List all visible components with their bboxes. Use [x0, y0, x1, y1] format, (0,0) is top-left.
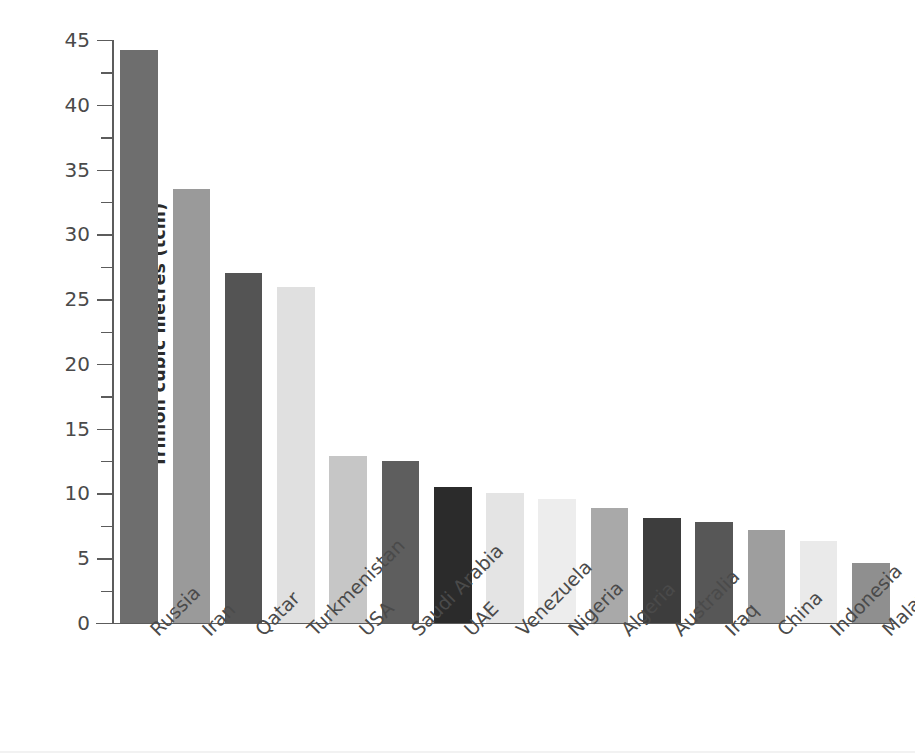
x-tick-label: Turkmenistan — [304, 626, 317, 639]
bar-chart-figure: Trillion cubic metres (tcm) 051015202530… — [0, 0, 915, 753]
y-tick-major — [97, 364, 112, 365]
x-tick-label: Saudi Arabia — [408, 626, 421, 639]
x-tick-label: Russia — [147, 626, 160, 639]
y-tick-major — [97, 234, 112, 235]
y-tick-minor — [101, 267, 112, 268]
x-tick-label: USA — [356, 626, 369, 639]
y-tick-minor — [101, 332, 112, 333]
y-tick-label: 30 — [65, 224, 90, 244]
y-tick-minor — [101, 72, 112, 73]
x-tick-label: Algeria — [618, 626, 631, 639]
bar — [173, 189, 211, 623]
y-tick-major — [97, 558, 112, 559]
y-tick-label: 20 — [65, 354, 90, 374]
y-tick-major — [97, 493, 112, 494]
y-tick-major — [97, 40, 112, 41]
x-tick-label: China — [774, 626, 787, 639]
y-axis-ticks — [97, 40, 112, 624]
y-tick-label: 35 — [65, 160, 90, 180]
x-tick-label: UAE — [461, 626, 474, 639]
bar-series — [113, 40, 897, 623]
x-tick-label: Australia — [670, 626, 683, 639]
y-tick-label: 25 — [65, 289, 90, 309]
y-tick-label: 15 — [65, 419, 90, 439]
y-tick-label: 10 — [65, 483, 90, 503]
x-tick-label: Nigeria — [565, 626, 578, 639]
bar — [277, 287, 315, 623]
y-tick-minor — [101, 137, 112, 138]
bar — [120, 50, 158, 623]
bar — [225, 273, 263, 623]
y-tick-major — [97, 170, 112, 171]
y-tick-major — [97, 299, 112, 300]
y-tick-label: 45 — [65, 30, 90, 50]
x-tick-label: Iran — [199, 626, 212, 639]
x-tick-label: Venezuela — [513, 626, 526, 639]
x-tick-label: Indonesia — [827, 626, 840, 639]
y-tick-major — [97, 429, 112, 430]
x-tick-label: Iraq — [722, 626, 735, 639]
y-tick-minor — [101, 461, 112, 462]
y-axis-tick-labels: 051015202530354045 — [0, 40, 112, 624]
y-tick-minor — [101, 526, 112, 527]
y-tick-minor — [101, 396, 112, 397]
y-tick-minor — [101, 202, 112, 203]
y-tick-major — [97, 105, 112, 106]
y-tick-label: 40 — [65, 95, 90, 115]
x-tick-label: Qatar — [252, 626, 265, 639]
y-tick-minor — [101, 591, 112, 592]
y-tick-label: 5 — [77, 548, 90, 568]
y-tick-label: 0 — [77, 613, 90, 633]
x-tick-label: Malaysia — [879, 626, 892, 639]
x-axis-tick-labels: RussiaIranQatarTurkmenistanUSASaudi Arab… — [113, 626, 897, 751]
